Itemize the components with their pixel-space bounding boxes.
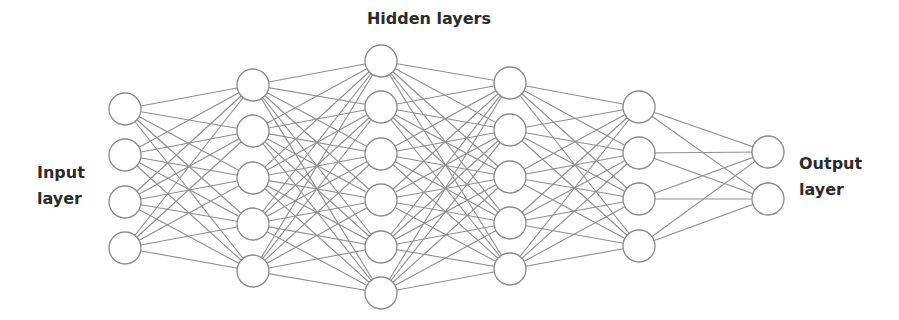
neuron-node: [494, 114, 526, 146]
connection-edge: [510, 107, 639, 130]
neuron-node: [365, 184, 397, 216]
connection-edge: [381, 177, 510, 293]
connection-edge: [253, 271, 381, 293]
connection-edge: [639, 107, 768, 152]
input-layer-label-line2: layer: [37, 189, 82, 208]
neuron-node: [109, 139, 141, 171]
connection-edge: [381, 83, 510, 154]
layer-hidden-3: [494, 67, 526, 285]
layer-hidden-2: [365, 45, 397, 309]
connection-edge: [381, 83, 510, 107]
connection-edge: [125, 85, 253, 155]
connection-edge: [381, 83, 510, 200]
connection-edge: [125, 248, 253, 271]
connection-edge: [125, 85, 253, 202]
connection-edge: [510, 153, 639, 269]
connection-edge: [253, 200, 381, 271]
neuron-node: [494, 253, 526, 285]
connection-edge: [253, 61, 381, 271]
connection-edge: [510, 107, 639, 269]
neuron-node: [237, 255, 269, 287]
neural-network-diagram: Hidden layers Input layer Output layer: [0, 0, 899, 320]
layer-hidden-1: [237, 69, 269, 287]
output-layer-label-line1: Output: [799, 154, 862, 173]
neuron-node: [365, 231, 397, 263]
neuron-node: [752, 183, 784, 215]
neuron-node: [623, 183, 655, 215]
neuron-node: [365, 277, 397, 309]
connection-edge: [510, 83, 639, 107]
connection-edge: [381, 130, 510, 293]
connection-edge: [510, 246, 639, 269]
connections: [125, 61, 768, 293]
neuron-node: [365, 45, 397, 77]
connection-edge: [639, 199, 768, 246]
input-layer-label-line1: Input: [37, 163, 85, 182]
neuron-node: [623, 230, 655, 262]
hidden-layers-title: Hidden layers: [367, 9, 491, 28]
neuron-node: [365, 91, 397, 123]
neuron-node: [109, 93, 141, 125]
neuron-node: [494, 207, 526, 239]
layer-input: [109, 93, 141, 264]
neuron-node: [237, 115, 269, 147]
connection-edge: [253, 61, 381, 131]
connection-edge: [125, 85, 253, 248]
neuron-node: [237, 69, 269, 101]
connection-edge: [510, 199, 639, 269]
connection-edge: [125, 178, 253, 248]
output-layer-label-line2: layer: [799, 180, 844, 199]
connection-edge: [381, 269, 510, 293]
connection-edge: [253, 61, 381, 178]
neuron-node: [752, 136, 784, 168]
neuron-node: [494, 67, 526, 99]
layer-hidden-4: [623, 91, 655, 262]
connection-edge: [253, 154, 381, 271]
connection-edge: [125, 131, 253, 248]
connection-edge: [253, 247, 381, 271]
connection-edge: [639, 152, 768, 153]
neuron-node: [494, 161, 526, 193]
connection-edge: [381, 61, 510, 83]
connection-edge: [253, 107, 381, 271]
connection-edge: [125, 85, 253, 109]
neuron-node: [237, 208, 269, 240]
neuron-node: [237, 162, 269, 194]
layer-output: [752, 136, 784, 215]
neuron-node: [109, 186, 141, 218]
connection-edge: [381, 83, 510, 247]
connection-edge: [125, 224, 253, 248]
connection-edge: [253, 61, 381, 224]
neuron-node: [109, 232, 141, 264]
neurons: [109, 45, 784, 309]
connection-edge: [510, 107, 639, 223]
neuron-node: [623, 91, 655, 123]
neuron-node: [365, 138, 397, 170]
neuron-node: [623, 137, 655, 169]
connection-edge: [253, 61, 381, 85]
connection-edge: [381, 223, 510, 293]
